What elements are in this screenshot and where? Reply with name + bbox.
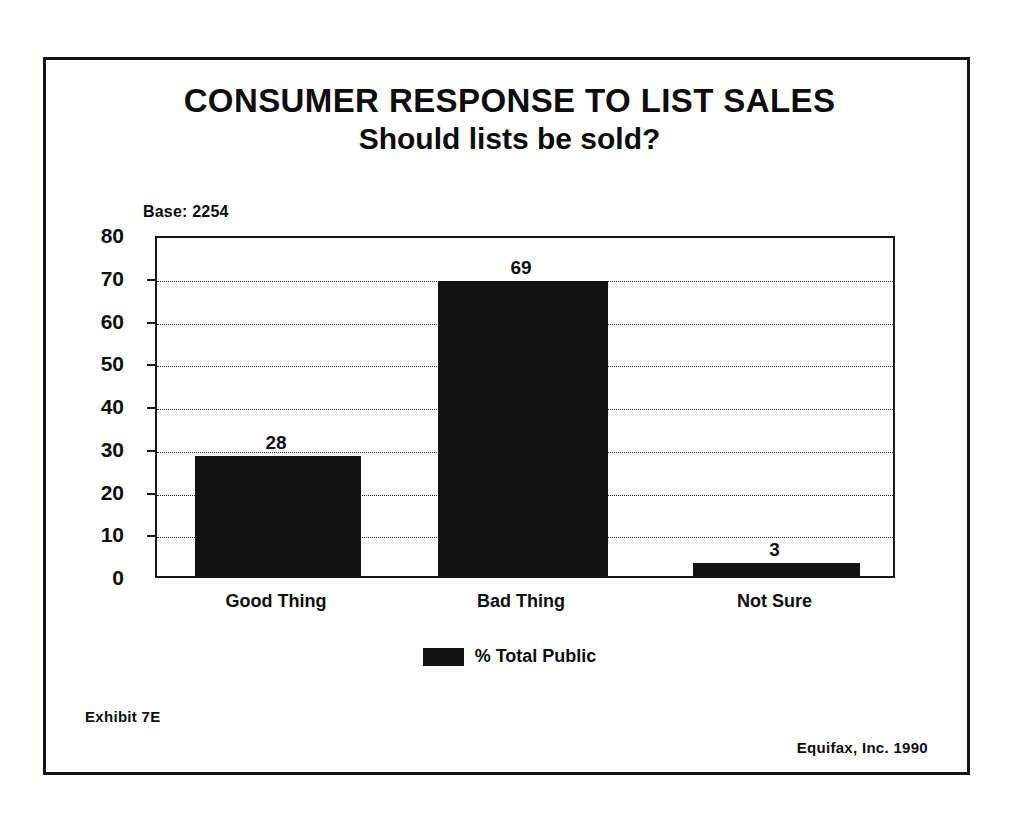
- plot-area: [155, 236, 895, 578]
- bar-value-label-0: 28: [193, 432, 359, 454]
- y-tick-60: [147, 322, 155, 324]
- exhibit-label: Exhibit 7E: [85, 708, 161, 725]
- x-axis-label-1: Bad Thing: [406, 591, 636, 612]
- y-tick-20: [147, 493, 155, 495]
- plot-inner: [157, 238, 893, 576]
- base-note: Base: 2254: [143, 203, 229, 221]
- chart-subtitle: Should lists be sold?: [46, 122, 973, 156]
- y-axis-label-60: 60: [64, 311, 124, 332]
- y-axis-label-40: 40: [64, 396, 124, 417]
- slide-frame: CONSUMER RESPONSE TO LIST SALES Should l…: [43, 57, 970, 775]
- y-tick-30: [147, 450, 155, 452]
- y-tick-50: [147, 364, 155, 366]
- legend-label-total-public: % Total Public: [475, 646, 597, 667]
- legend-swatch-total-public: [423, 648, 464, 666]
- y-tick-10: [147, 535, 155, 537]
- y-axis-label-30: 30: [64, 439, 124, 460]
- bar-value-label-1: 69: [436, 257, 606, 279]
- x-axis-label-0: Good Thing: [163, 591, 389, 612]
- y-axis-label-20: 20: [64, 482, 124, 503]
- y-axis-label-0: 0: [64, 567, 124, 588]
- bar-1[interactable]: [438, 281, 608, 576]
- y-axis-label-70: 70: [64, 268, 124, 289]
- y-axis-label-80: 80: [64, 225, 124, 246]
- chart-title: CONSUMER RESPONSE TO LIST SALES: [46, 82, 973, 120]
- bar-0[interactable]: [195, 456, 361, 576]
- y-tick-70: [147, 279, 155, 281]
- bar-value-label-2: 3: [691, 539, 858, 561]
- y-axis-label-50: 50: [64, 353, 124, 374]
- y-axis-label-10: 10: [64, 524, 124, 545]
- x-axis-label-2: Not Sure: [661, 591, 888, 612]
- chart-legend: % Total Public: [46, 646, 973, 667]
- y-tick-40: [147, 407, 155, 409]
- bar-2[interactable]: [693, 563, 860, 576]
- scanned-page: CONSUMER RESPONSE TO LIST SALES Should l…: [0, 0, 1012, 834]
- source-label: Equifax, Inc. 1990: [797, 739, 928, 756]
